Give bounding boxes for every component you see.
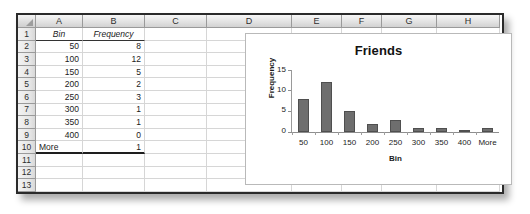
cell-c6[interactable] <box>145 91 207 104</box>
cell-a7[interactable]: 300 <box>36 104 83 117</box>
row-header-2-label: 2 <box>24 41 29 51</box>
row-header-4[interactable]: 4 <box>18 66 35 79</box>
row-header-10-label: 10 <box>22 142 31 152</box>
x-axis-title: Bin <box>292 154 499 163</box>
column-header-e[interactable]: E <box>292 15 342 28</box>
row-header-6[interactable]: 6 <box>18 91 35 104</box>
bar-150[interactable] <box>344 111 355 132</box>
x-tick-mark <box>315 132 316 135</box>
cell-a8[interactable]: 350 <box>36 116 83 129</box>
cell-c3[interactable] <box>145 53 207 66</box>
cell-b2[interactable]: 8 <box>83 41 145 54</box>
column-header-h[interactable]: H <box>437 15 500 28</box>
row-header-13[interactable]: 13 <box>18 179 35 192</box>
row-header-11[interactable]: 11 <box>18 154 35 167</box>
cell-a2[interactable]: 50 <box>36 41 83 54</box>
cell-b7[interactable]: 1 <box>83 104 145 117</box>
row-header-8[interactable]: 8 <box>18 116 35 129</box>
row-header-7[interactable]: 7 <box>18 104 35 117</box>
cell-a1[interactable]: Bin <box>36 28 83 41</box>
bar-350[interactable] <box>436 128 447 132</box>
cell-c8[interactable] <box>145 116 207 129</box>
cell-a5[interactable]: 200 <box>36 78 83 91</box>
cell-b10[interactable]: 1 <box>83 141 145 154</box>
cell-a10[interactable]: More <box>36 141 83 154</box>
x-axis-line <box>291 132 499 133</box>
cell-a4[interactable]: 150 <box>36 66 83 79</box>
cell-a9[interactable]: 400 <box>36 129 83 142</box>
column-header-a[interactable]: A <box>36 15 83 28</box>
cell-b12[interactable] <box>83 167 145 180</box>
column-header-d[interactable]: D <box>207 15 292 28</box>
bar-slot-50 <box>292 70 315 132</box>
column-header-b[interactable]: B <box>83 15 145 28</box>
cell-a12[interactable] <box>36 167 83 180</box>
x-tick-mark <box>407 132 408 135</box>
cell-c5[interactable] <box>145 78 207 91</box>
cell-b6[interactable]: 3 <box>83 91 145 104</box>
cell-b8[interactable]: 1 <box>83 116 145 129</box>
cell-b5[interactable]: 2 <box>83 78 145 91</box>
bar-slot-400 <box>453 70 476 132</box>
row-header-3-label: 3 <box>24 54 29 64</box>
select-all-button[interactable] <box>18 15 36 28</box>
row-header-1[interactable]: 1 <box>18 28 35 41</box>
column-header-c-label: C <box>172 16 179 26</box>
cell-c7[interactable] <box>145 104 207 117</box>
cell-b3[interactable]: 12 <box>83 53 145 66</box>
column-header-a-label: A <box>56 16 62 26</box>
bar-50[interactable] <box>298 99 309 132</box>
cell-a3[interactable]: 100 <box>36 53 83 66</box>
cell-c10[interactable] <box>145 141 207 154</box>
cell-c11[interactable] <box>145 154 207 167</box>
cell-b1[interactable]: Frequency <box>83 28 145 41</box>
bar-slot-150 <box>338 70 361 132</box>
x-tick-mark <box>453 132 454 135</box>
column-header-g[interactable]: G <box>382 15 437 28</box>
row-header-5[interactable]: 5 <box>18 78 35 91</box>
x-tick-label-50: 50 <box>292 138 315 147</box>
cell-c1[interactable] <box>145 28 207 41</box>
cell-c2[interactable] <box>145 41 207 54</box>
row-header-2[interactable]: 2 <box>18 41 35 54</box>
y-tick-label-15: 15 <box>268 65 286 74</box>
bar-100[interactable] <box>321 82 332 132</box>
cell-b13[interactable] <box>83 179 145 192</box>
row-header-6-label: 6 <box>24 92 29 102</box>
bar-300[interactable] <box>413 128 424 132</box>
x-tick-mark <box>338 132 339 135</box>
embedded-bar-chart[interactable]: Friends Frequency 15 10 5 0 <box>245 33 512 185</box>
row-header-8-label: 8 <box>24 117 29 127</box>
select-all-triangle-icon <box>26 19 33 26</box>
column-header-c[interactable]: C <box>145 15 207 28</box>
cell-b11[interactable] <box>83 154 145 167</box>
cell-a6[interactable]: 250 <box>36 91 83 104</box>
cell-a13[interactable] <box>36 179 83 192</box>
bar-slot-350 <box>430 70 453 132</box>
cell-b9[interactable]: 0 <box>83 129 145 142</box>
x-tick-mark <box>476 132 477 135</box>
cell-c4[interactable] <box>145 66 207 79</box>
row-header-3[interactable]: 3 <box>18 53 35 66</box>
bar-250[interactable] <box>390 120 401 132</box>
column-header-f[interactable]: F <box>342 15 382 28</box>
column-header-d-label: D <box>246 16 253 26</box>
bar-400[interactable] <box>459 130 470 132</box>
x-tick-label-300: 300 <box>407 138 430 147</box>
cell-c9[interactable] <box>145 129 207 142</box>
grid-area: Bin Frequency 50 8 <box>36 28 502 192</box>
bar-slot-300 <box>407 70 430 132</box>
y-tick-label-0: 0 <box>268 126 286 135</box>
cell-a11[interactable] <box>36 154 83 167</box>
bar-more[interactable] <box>482 128 493 132</box>
row-header-5-label: 5 <box>24 79 29 89</box>
cell-b4[interactable]: 5 <box>83 66 145 79</box>
cell-c13[interactable] <box>145 179 207 192</box>
bar-200[interactable] <box>367 124 378 132</box>
row-header-12[interactable]: 12 <box>18 167 35 180</box>
cell-c12[interactable] <box>145 167 207 180</box>
bar-series <box>292 70 499 132</box>
row-header-10[interactable]: 10 <box>18 141 35 154</box>
row-header-9[interactable]: 9 <box>18 129 35 142</box>
y-tick-label-5: 5 <box>268 105 286 114</box>
